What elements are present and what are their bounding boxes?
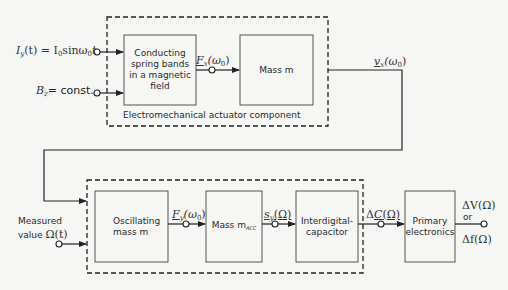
- dc-node: [378, 221, 384, 227]
- primary-electronics-text: Primary electronics: [405, 191, 455, 262]
- measured-input-node: [56, 241, 62, 247]
- input-current-label: Iy(t) = I0sinω0t: [16, 44, 96, 58]
- measured-label-line1: Measured: [18, 216, 62, 226]
- spring-bands-text: Conducting spring bands in a magnetic fi…: [124, 35, 196, 105]
- vx-label: vx(ω0): [374, 55, 406, 69]
- mass-acc-text: Mass mACC: [206, 191, 262, 262]
- measured-label-line2: value Ω(t): [18, 228, 68, 241]
- output-dv-label: ΔV(Ω): [462, 199, 496, 212]
- fy-label: Fy(ω0): [172, 208, 206, 222]
- sy-label: sy(Ω): [264, 208, 291, 222]
- fx-label: Fx(ω0): [196, 54, 230, 68]
- dc-label: ΔC(Ω): [366, 208, 400, 221]
- input-field-label: Bz= const.: [36, 84, 94, 98]
- output-node: [481, 221, 487, 227]
- actuator-caption: Electromechanical actuator component: [123, 110, 300, 120]
- output-or-label: or: [463, 212, 472, 222]
- output-df-label: Δf(Ω): [462, 233, 492, 246]
- mass-m-top-text: Mass m: [240, 35, 313, 105]
- input-field-node: [94, 90, 100, 96]
- osc-mass-text: Oscillating mass m: [95, 191, 168, 262]
- interdigital-text: Interdigital- capacitor: [296, 191, 358, 262]
